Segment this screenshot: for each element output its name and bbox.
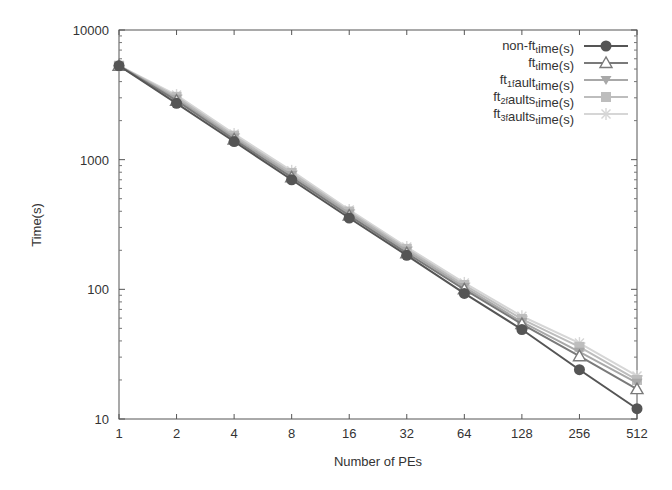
data-point <box>632 403 643 414</box>
y-axis-title: Time(s) <box>29 203 44 247</box>
x-tick-label: 4 <box>230 426 237 441</box>
legend-marker-circle-icon <box>601 41 612 52</box>
legend-marker-star-icon <box>600 108 612 120</box>
line-chart: 1248163264128256512 10100100010000 Numbe… <box>0 0 672 490</box>
data-point <box>171 98 182 109</box>
x-tick-label: 32 <box>400 426 414 441</box>
legend-label: non-fttime(s) <box>502 38 574 56</box>
data-point <box>114 60 125 71</box>
data-point <box>344 212 355 223</box>
data-point <box>286 174 297 185</box>
x-tick-label: 16 <box>342 426 356 441</box>
legend-marker-square-icon <box>601 92 611 102</box>
x-tick-label: 1 <box>115 426 122 441</box>
data-point <box>401 250 412 261</box>
data-point <box>574 364 585 375</box>
x-tick-label: 256 <box>569 426 591 441</box>
x-axis-title: Number of PEs <box>334 454 423 469</box>
x-tick-label: 512 <box>626 426 648 441</box>
data-point <box>516 324 527 335</box>
x-tick-label: 64 <box>457 426 471 441</box>
legend-label: ft1faulttime(s) <box>500 72 574 93</box>
x-tick-label: 128 <box>511 426 533 441</box>
y-tick-label: 100 <box>87 282 109 297</box>
data-point <box>459 288 470 299</box>
legend-label: fttime(s) <box>528 55 574 73</box>
y-tick-label: 10000 <box>73 23 109 38</box>
x-tick-label: 2 <box>173 426 180 441</box>
y-tick-label: 1000 <box>80 153 109 168</box>
legend: non-fttime(s)fttime(s)ft1faulttime(s)ft2… <box>493 38 628 127</box>
x-tick-label: 8 <box>288 426 295 441</box>
y-tick-label: 10 <box>95 412 109 427</box>
data-point <box>229 136 240 147</box>
